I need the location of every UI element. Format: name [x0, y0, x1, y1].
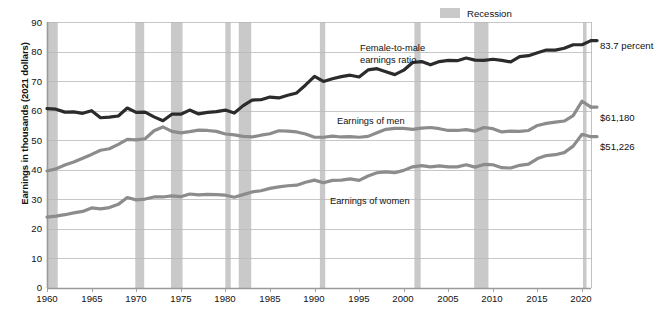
chart-canvas [0, 0, 664, 323]
x-tick-2015: 2015 [517, 293, 557, 304]
y-tick-20: 20 [18, 223, 42, 234]
x-tick-2020: 2020 [561, 293, 601, 304]
x-tick-2005: 2005 [428, 293, 468, 304]
x-tick-1970: 1970 [116, 293, 156, 304]
x-tick-1985: 1985 [250, 293, 290, 304]
recession-band [135, 22, 144, 288]
annotation-earnings-of-women: Earnings of women [330, 196, 410, 207]
x-tick-1990: 1990 [294, 293, 334, 304]
y-tick-60: 60 [18, 105, 42, 116]
recession-band [225, 22, 230, 288]
x-tick-2010: 2010 [472, 293, 512, 304]
y-tick-90: 90 [18, 17, 42, 28]
end-label-ratio: 83.7 percent [600, 40, 653, 51]
recession-band [320, 22, 325, 288]
annotation-earnings-of-men: Earnings of men [337, 116, 405, 127]
annotation-ratio-line2: earnings ratio [360, 55, 416, 66]
y-tick-10: 10 [18, 253, 42, 264]
recession-band [583, 22, 587, 288]
y-tick-30: 30 [18, 194, 42, 205]
y-tick-0: 0 [18, 282, 42, 293]
recession-legend-label: Recession [467, 8, 512, 19]
end-label-men: $61,180 [600, 112, 635, 123]
x-tick-2000: 2000 [383, 293, 423, 304]
y-tick-80: 80 [18, 46, 42, 57]
data-series [47, 41, 591, 217]
x-tick-1960: 1960 [27, 293, 67, 304]
end-label-women: $51,226 [600, 141, 635, 152]
recession-band [239, 22, 251, 288]
x-tick-1965: 1965 [72, 293, 112, 304]
x-tick-1995: 1995 [339, 293, 379, 304]
y-tick-70: 70 [18, 76, 42, 87]
recession-legend-swatch [440, 8, 460, 18]
series-line [47, 134, 591, 217]
recession-band [47, 22, 58, 288]
x-tick-1980: 1980 [205, 293, 245, 304]
y-tick-40: 40 [18, 164, 42, 175]
y-tick-50: 50 [18, 135, 42, 146]
recession-band [171, 22, 183, 288]
figure-earnings-chart: Earnings in thousands (2021 dollars) 90 … [0, 0, 664, 323]
x-tick-1975: 1975 [161, 293, 201, 304]
annotation-ratio-line1: Female-to-male [360, 43, 425, 54]
